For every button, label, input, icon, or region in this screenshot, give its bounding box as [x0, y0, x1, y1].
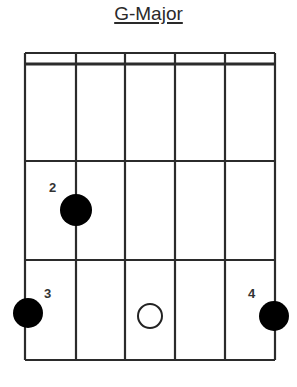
- finger-dot-4: [259, 301, 289, 331]
- open-circle-marker: [138, 304, 162, 328]
- finger-label-4: 4: [248, 286, 256, 301]
- finger-label-2: 2: [49, 180, 56, 195]
- finger-dot-3: [13, 298, 43, 328]
- finger-dot-2: [60, 194, 92, 226]
- chord-diagram: 2 3 4: [0, 0, 297, 387]
- finger-label-3: 3: [44, 286, 51, 301]
